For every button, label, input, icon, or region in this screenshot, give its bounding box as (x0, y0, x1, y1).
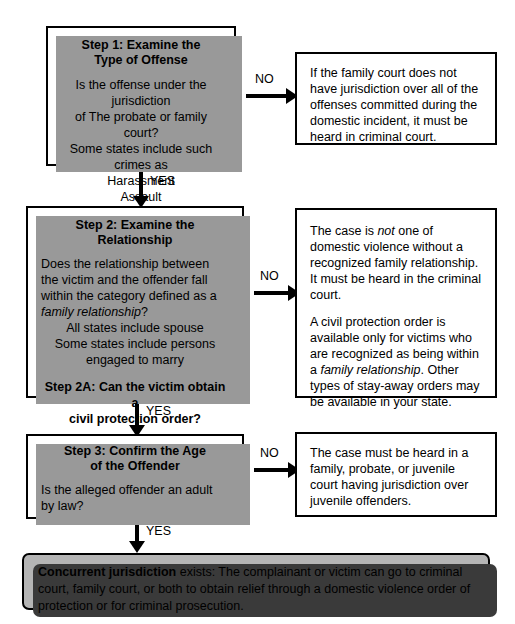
step1-node: Step 1: Examine the Type of Offense Is t… (46, 26, 236, 166)
step2-details: All states include spouse Some states in… (41, 320, 229, 368)
step2-question-post: ? (141, 305, 148, 319)
step1-title: Step 1: Examine the Type of Offense (60, 38, 222, 68)
step3-content: Step 3: Confirm the Age of the Offender … (28, 436, 242, 522)
step2-question-italic: family relationship (41, 305, 141, 319)
step1-no-label: NO (255, 72, 274, 86)
step2-no-label: NO (260, 269, 279, 283)
step1-content: Step 1: Examine the Type of Offense Is t… (48, 28, 234, 233)
step3-node: Step 3: Confirm the Age of the Offender … (26, 434, 244, 519)
step2-no-outcome-content: The case is not one of domestic violence… (297, 210, 495, 423)
step2-question-pre: Does the relationship between the victim… (41, 257, 217, 303)
step2-node: Step 2: Examine the Relationship Does th… (26, 206, 244, 398)
step3-no-label: NO (260, 446, 279, 460)
step3-no-outcome-text: The case must be heard in a family, prob… (310, 445, 482, 509)
step2-no-outcome-node: The case is not one of domestic violence… (295, 208, 497, 398)
step2-no-outcome-p1-pre: The case is (310, 224, 377, 238)
step3-no-outcome-node: The case must be heard in a family, prob… (295, 432, 497, 517)
step3-yes-arrowhead (129, 541, 145, 553)
step2-no-outcome-paragraph-2: A civil protection order is available on… (310, 314, 482, 410)
step2a-subtitle: Step 2A: Can the victim obtain a civil p… (41, 379, 229, 427)
step2-question: Does the relationship between the victim… (41, 256, 229, 320)
step1-no-outcome-content: If the family court does not have jurisd… (297, 54, 495, 156)
step3-question: Is the alleged offender an adult by law? (41, 482, 229, 514)
flowchart-canvas: Step 1: Examine the Type of Offense Is t… (0, 0, 515, 624)
step2-title: Step 2: Examine the Relationship (41, 218, 229, 248)
step3-no-outcome-content: The case must be heard in a family, prob… (297, 434, 495, 520)
step2-no-outcome-p2-italic: family relationship (320, 363, 420, 377)
concurrent-jurisdiction-panel: Concurrent jurisdiction exists: The comp… (22, 553, 490, 610)
step1-no-outcome-text: If the family court does not have jurisd… (310, 65, 482, 145)
step2-content: Step 2: Examine the Relationship Does th… (28, 208, 242, 437)
step2-no-outcome-p1-italic: not (377, 224, 394, 238)
step1-no-outcome-node: If the family court does not have jurisd… (295, 52, 497, 145)
step2-no-outcome-paragraph-1: The case is not one of domestic violence… (310, 223, 482, 303)
step3-yes-label: YES (146, 524, 171, 538)
concurrent-jurisdiction-lead: Concurrent jurisdiction (38, 565, 176, 579)
step1-question: Is the offense under the jurisdiction of… (60, 77, 222, 173)
step3-title: Step 3: Confirm the Age of the Offender (41, 444, 229, 474)
concurrent-jurisdiction-text: Concurrent jurisdiction exists: The comp… (24, 555, 488, 624)
